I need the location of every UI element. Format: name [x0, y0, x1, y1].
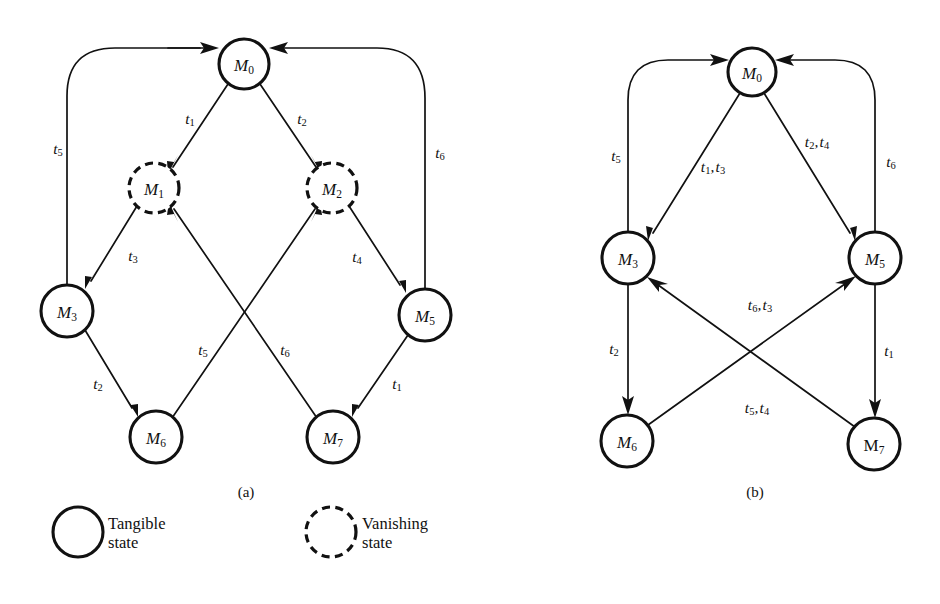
- node-a-M2[interactable]: M2: [307, 163, 357, 213]
- edge-path: [358, 335, 408, 408]
- edge-label-a-t3: t3: [128, 247, 138, 265]
- edge-b-M5-M7: [869, 284, 881, 418]
- legend-vanishing-circle-icon: [306, 507, 356, 557]
- edge-a-M6-M2: [172, 202, 322, 418]
- edge-b-M0-M3: [646, 93, 740, 241]
- node-a-M6[interactable]: M6: [130, 411, 182, 463]
- node-b-M0[interactable]: M0: [728, 48, 776, 96]
- figure-root: M0 M1 M2 M3 M5 M6: [0, 0, 940, 604]
- edge-label-a-t6-cross: t6: [280, 341, 290, 359]
- caption-a: (a): [238, 484, 255, 501]
- node-b-M6[interactable]: M6: [601, 415, 653, 467]
- edge-path: [172, 209, 315, 418]
- edge-label-a-t1-lower: t1: [392, 375, 402, 393]
- edge-a-M5-M0: [269, 42, 425, 289]
- diagram-a: M0 M1 M2 M3 M5 M6: [41, 39, 451, 501]
- edge-a-M3-M0: [67, 42, 219, 285]
- diagram-b: M0 M3 M5 M6 M7 t1, t3 t2, t4 t5 t6: [601, 48, 901, 501]
- edge-b-M0-M5: [764, 93, 857, 241]
- edge-label-a-t2: t2: [297, 110, 307, 128]
- node-b-M7[interactable]: M7: [848, 418, 900, 470]
- edge-a-M0-M2: [260, 84, 322, 174]
- edge-a-M0-M1: [167, 84, 228, 174]
- arrow-head-icon: [395, 274, 406, 293]
- edge-path: [653, 93, 740, 233]
- edge-label-a-t5-outer: t5: [53, 140, 63, 158]
- edge-label-b-t5-t4: t5, t4: [745, 399, 770, 417]
- legend-vanishing-label: Vanishing state: [362, 514, 428, 552]
- edge-path: [764, 93, 850, 233]
- edge-a-M5-M7: [352, 335, 408, 417]
- node-a-M5[interactable]: M5: [399, 289, 451, 341]
- edge-label-b-t2: t2: [609, 340, 619, 358]
- edge-path: [85, 330, 132, 408]
- edge-path: [276, 48, 425, 289]
- legend-tangible-circle-icon: [53, 507, 103, 557]
- edge-label-a-t5-cross: t5: [198, 341, 208, 359]
- edge-label-a-t6-outer: t6: [435, 144, 445, 162]
- node-a-M1[interactable]: M1: [129, 163, 179, 213]
- legend-tangible-label: Tangible state: [108, 514, 166, 552]
- edge-b-M3-M0: [628, 54, 729, 232]
- edge-path: [173, 84, 228, 167]
- node-a-M3[interactable]: M3: [41, 285, 93, 337]
- edge-path: [260, 84, 316, 167]
- edge-path: [349, 206, 400, 285]
- legend: [53, 507, 356, 557]
- node-b-M3[interactable]: M3: [602, 232, 654, 284]
- edge-a-M2-M5: [349, 206, 406, 293]
- edge-b-M3-M6: [622, 284, 634, 415]
- edge-path: [174, 209, 317, 418]
- edge-label-b-t5: t5: [611, 147, 621, 165]
- edge-label-a-t1: t1: [185, 110, 195, 128]
- edge-label-a-t4: t4: [352, 248, 362, 266]
- arrow-head-icon: [352, 398, 363, 417]
- edge-label-b-t1-t3: t1, t3: [701, 158, 725, 176]
- edge-label-b-t2-t4: t2, t4: [805, 133, 830, 151]
- node-a-M0[interactable]: M0: [219, 39, 269, 89]
- edge-label-a-t2-lower: t2: [93, 375, 103, 393]
- edge-label-b-t6-t3: t6, t3: [748, 296, 772, 314]
- arrow-head-icon: [85, 270, 96, 289]
- edge-path: [91, 206, 137, 281]
- node-a-M7[interactable]: M7: [307, 411, 359, 463]
- edge-label-b-t1: t1: [884, 342, 894, 360]
- edge-label-b-t6: t6: [886, 153, 896, 171]
- node-b-M5[interactable]: M5: [849, 232, 901, 284]
- edge-a-M7-M1: [167, 202, 317, 418]
- edge-a-M3-M6: [85, 330, 138, 417]
- caption-b: (b): [746, 484, 764, 501]
